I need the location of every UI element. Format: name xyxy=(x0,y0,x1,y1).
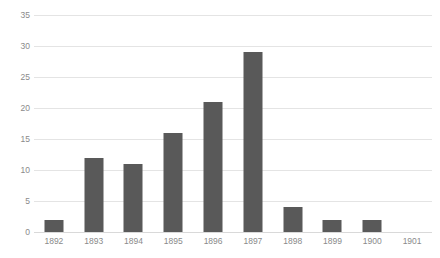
y-tick-label: 10 xyxy=(21,166,30,175)
plot-area xyxy=(34,15,432,232)
y-tick-label: 0 xyxy=(25,228,30,237)
bar[interactable] xyxy=(243,52,262,232)
x-tick-label: 1893 xyxy=(84,237,103,246)
x-tick-label: 1895 xyxy=(164,237,183,246)
bar-slot xyxy=(193,15,233,232)
x-tick-label: 1896 xyxy=(204,237,223,246)
bar[interactable] xyxy=(363,220,382,232)
bar-slot xyxy=(153,15,193,232)
bar-slot xyxy=(233,15,273,232)
x-tick-label: 1897 xyxy=(243,237,262,246)
y-tick-label: 20 xyxy=(21,104,30,113)
bar-slot xyxy=(114,15,154,232)
bar[interactable] xyxy=(124,164,143,232)
bar[interactable] xyxy=(84,158,103,232)
gridline xyxy=(34,232,432,233)
x-tick-label: 1900 xyxy=(363,237,382,246)
bar-chart: 05101520253035 1892189318941895189618971… xyxy=(0,0,440,258)
bar-slot xyxy=(392,15,432,232)
x-tick-label: 1899 xyxy=(323,237,342,246)
x-tick-label: 1898 xyxy=(283,237,302,246)
x-tick-label: 1892 xyxy=(44,237,63,246)
bar[interactable] xyxy=(204,102,223,232)
bar[interactable] xyxy=(283,207,302,232)
y-tick-label: 35 xyxy=(21,11,30,20)
bar[interactable] xyxy=(44,220,63,232)
bar-slot xyxy=(313,15,353,232)
x-axis: 1892189318941895189618971898189919001901 xyxy=(34,237,432,251)
bar[interactable] xyxy=(164,133,183,232)
y-tick-label: 5 xyxy=(25,197,30,206)
bar[interactable] xyxy=(323,220,342,232)
bar-slot xyxy=(352,15,392,232)
y-tick-label: 25 xyxy=(21,73,30,82)
y-tick-label: 15 xyxy=(21,135,30,144)
y-tick-label: 30 xyxy=(21,42,30,51)
bar-slot xyxy=(34,15,74,232)
y-axis: 05101520253035 xyxy=(0,15,30,232)
x-tick-label: 1901 xyxy=(403,237,422,246)
x-tick-label: 1894 xyxy=(124,237,143,246)
bars-layer xyxy=(34,15,432,232)
bar-slot xyxy=(74,15,114,232)
bar-slot xyxy=(273,15,313,232)
